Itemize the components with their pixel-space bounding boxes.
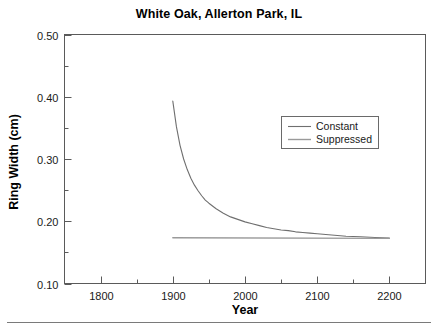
y-tick-label: 0.20 xyxy=(37,216,58,228)
y-axis-ticks xyxy=(65,36,72,285)
chart-figure: White Oak, Allerton Park, IL Ring Width … xyxy=(0,0,438,334)
x-tick-label: 1900 xyxy=(161,290,185,302)
y-axis-tick-labels: 0.100.200.300.400.50 xyxy=(37,30,58,291)
footer-divider xyxy=(7,322,431,323)
y-tick-label: 0.30 xyxy=(37,154,58,166)
y-tick-label: 0.40 xyxy=(37,92,58,104)
chart-legend: Constant Suppressed xyxy=(282,117,379,149)
x-tick-label: 2200 xyxy=(377,290,401,302)
x-tick-label: 2000 xyxy=(233,290,257,302)
plot-frame xyxy=(65,35,426,284)
plot-area: 0.100.200.300.400.50 1800190020002100220… xyxy=(0,0,438,334)
x-tick-label: 2100 xyxy=(305,290,329,302)
x-axis-tick-labels: 18001900200021002200 xyxy=(89,290,401,302)
legend-label-suppressed: Suppressed xyxy=(316,133,372,145)
x-tick-label: 1800 xyxy=(89,290,113,302)
y-tick-label: 0.50 xyxy=(37,30,58,42)
y-tick-label: 0.10 xyxy=(37,279,58,291)
legend-label-constant: Constant xyxy=(316,120,358,132)
x-axis-ticks xyxy=(102,277,390,284)
series-line-suppressed xyxy=(173,238,390,239)
